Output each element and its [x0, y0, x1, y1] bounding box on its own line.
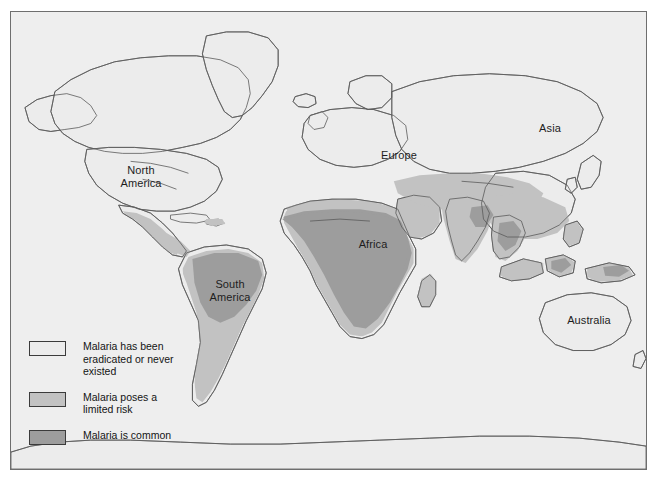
legend-label-limited-risk: Malaria poses a limited risk — [83, 391, 157, 416]
legend-row-eradicated: Malaria has been eradicated or never exi… — [29, 340, 229, 378]
screenshot-root: North America South America Africa Europ… — [0, 0, 659, 485]
legend-swatch-limited-risk — [29, 392, 66, 407]
legend-label-eradicated: Malaria has been eradicated or never exi… — [83, 340, 173, 378]
world-map-panel: North America South America Africa Europ… — [10, 11, 647, 470]
legend-swatch-common — [29, 430, 66, 445]
legend-label-common: Malaria is common — [83, 429, 171, 442]
legend-swatch-eradicated — [29, 341, 66, 356]
legend-row-limited-risk: Malaria poses a limited risk — [29, 391, 229, 416]
legend-row-common: Malaria is common — [29, 429, 229, 445]
map-legend: Malaria has been eradicated or never exi… — [29, 340, 229, 458]
